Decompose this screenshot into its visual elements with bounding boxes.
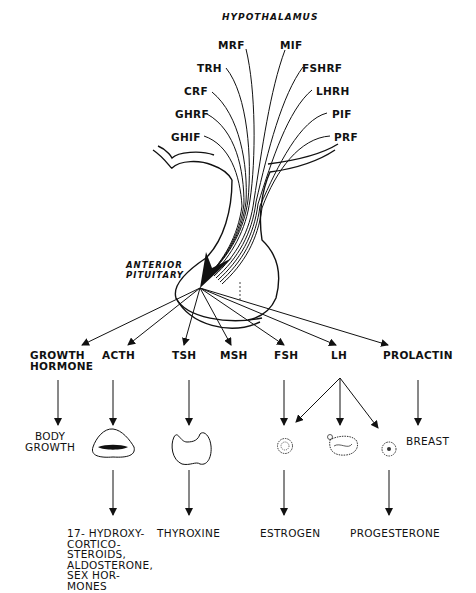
- hypothalamus-title: HYPOTHALAMUS: [222, 12, 318, 23]
- target-body-growth: BODY GROWTH: [25, 431, 75, 453]
- neural-fibers: [204, 49, 330, 284]
- hormone-arrows: [82, 288, 388, 345]
- factor-ghrf: GHRF: [175, 109, 209, 120]
- factor-lhrh: LHRH: [316, 86, 350, 97]
- diagram-lines: [0, 0, 476, 593]
- hormone-msh: MSH: [220, 350, 248, 361]
- factor-trh: TRH: [197, 63, 222, 74]
- follicle-icon: [278, 439, 293, 454]
- product-estrogen: ESTROGEN: [260, 528, 320, 539]
- target-arrows: [58, 378, 418, 428]
- factor-mif: MIF: [280, 40, 302, 51]
- product-thyroxine: THYROXINE: [157, 528, 220, 539]
- ovulating-follicle-icon: [328, 435, 358, 456]
- hormone-tsh: TSH: [172, 350, 196, 361]
- factor-fshrf: FSHRF: [302, 63, 342, 74]
- hormone-acth: ACTH: [102, 350, 135, 361]
- hormone-growth-hormone: GROWTH HORMONE: [30, 350, 93, 372]
- product-progesterone: PROGESTERONE: [350, 528, 440, 539]
- hormone-lh: LH: [331, 350, 347, 361]
- factor-mrf: MRF: [218, 40, 245, 51]
- product-arrows: [113, 470, 389, 515]
- factor-crf: CRF: [184, 86, 208, 97]
- target-breast: BREAST: [406, 436, 449, 447]
- anterior-pituitary-label: ANTERIOR PITUITARY: [126, 260, 184, 280]
- adrenal-gland-icon: [92, 429, 134, 457]
- factor-ghif: GHIF: [171, 132, 201, 143]
- product-corticosteroids: 17- HYDROXY- CORTICO- STEROIDS, ALDOSTER…: [67, 528, 153, 591]
- hypothalamic-pituitary-diagram: HYPOTHALAMUS MRF TRH CRF GHRF GHIF MIF F…: [0, 0, 476, 593]
- thyroid-gland-icon: [172, 433, 211, 465]
- factor-prf: PRF: [334, 132, 358, 143]
- corpus-luteum-icon: [382, 442, 396, 456]
- hormone-prolactin: PROLACTIN: [383, 350, 453, 361]
- factor-pif: PIF: [332, 109, 352, 120]
- hormone-fsh: FSH: [274, 350, 298, 361]
